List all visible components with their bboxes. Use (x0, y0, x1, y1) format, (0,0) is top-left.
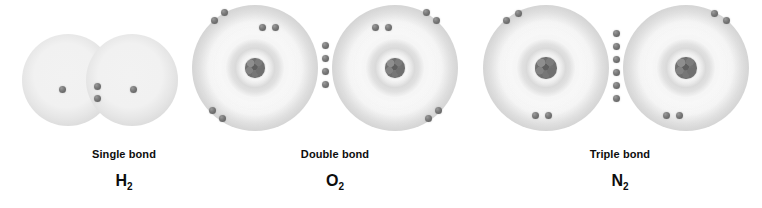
n2-shared-electron-3 (613, 56, 620, 63)
o2-shared-electron-3 (322, 68, 329, 75)
o2-bond-label: Double bond (190, 148, 480, 160)
n2-lone-electron-5 (663, 112, 670, 119)
o2-lone-electron-12 (435, 107, 442, 114)
o2-lone-electron-10 (433, 17, 440, 24)
n2-lone-electron-4 (545, 112, 552, 119)
covalent-bonding-diagram: Single bond H2 Double bond O2 Triple bon… (0, 0, 762, 208)
o2-lone-electron-4 (272, 24, 279, 31)
o2-subscript: 2 (338, 181, 344, 192)
molecule-n2: Triple bond N2 (478, 0, 762, 208)
o2-lone-electron-3 (259, 24, 266, 31)
n2-formula: N2 (478, 172, 762, 192)
n2-lone-electron-1 (503, 17, 510, 24)
o2-nucleus-2 (385, 58, 405, 78)
n2-lone-electron-2 (515, 10, 522, 17)
n2-lone-electron-6 (676, 112, 683, 119)
o2-lone-electron-1 (211, 17, 218, 24)
n2-lone-electron-7 (711, 10, 718, 17)
o2-lone-electron-6 (219, 115, 226, 122)
h2-shared-electron-2 (94, 95, 101, 102)
o2-nucleus-1 (245, 58, 265, 78)
n2-element-symbol: N (611, 172, 623, 189)
o2-lone-electron-8 (385, 24, 392, 31)
h2-lone-electron-1 (59, 86, 66, 93)
o2-element-symbol: O (326, 172, 338, 189)
o2-diagram-area (190, 0, 480, 142)
n2-diagram-area (478, 0, 762, 142)
n2-shared-electron-6 (613, 95, 620, 102)
n2-nucleus-1 (535, 57, 557, 79)
o2-lone-electron-5 (209, 107, 216, 114)
h2-lone-electron-2 (130, 86, 137, 93)
o2-lone-electron-11 (425, 115, 432, 122)
h2-shared-electron-1 (94, 83, 101, 90)
n2-lone-electron-3 (532, 112, 539, 119)
n2-shared-electron-4 (613, 69, 620, 76)
n2-nucleus-2 (675, 57, 697, 79)
molecule-o2: Double bond O2 (190, 0, 480, 208)
n2-shared-electron-1 (613, 30, 620, 37)
n2-shared-electron-2 (613, 43, 620, 50)
n2-lone-electron-8 (723, 17, 730, 24)
o2-lone-electron-9 (423, 9, 430, 16)
o2-shared-electron-1 (322, 42, 329, 49)
o2-lone-electron-2 (221, 9, 228, 16)
o2-shared-electron-2 (322, 55, 329, 62)
h2-atom-2-electron-cloud (86, 34, 178, 126)
o2-lone-electron-7 (372, 24, 379, 31)
n2-shared-electron-5 (613, 82, 620, 89)
o2-shared-electron-4 (322, 81, 329, 88)
o2-formula: O2 (190, 172, 480, 192)
h2-element-symbol: H (115, 172, 127, 189)
h2-subscript: 2 (127, 181, 133, 192)
n2-bond-label: Triple bond (478, 148, 762, 160)
n2-subscript: 2 (623, 181, 629, 192)
